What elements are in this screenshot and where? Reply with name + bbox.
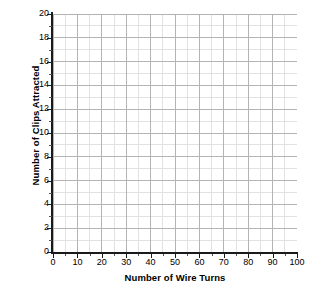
x-tick-mark-minor [285, 254, 286, 256]
y-tick-label: 20 [3, 9, 49, 18]
x-tick-mark [175, 254, 176, 258]
y-tick-mark [47, 204, 52, 205]
y-tick-label: 4 [3, 199, 49, 208]
y-tick-mark [47, 157, 52, 158]
x-tick-mark [53, 254, 54, 258]
y-tick-mark-minor [49, 50, 52, 51]
y-tick-label: 18 [3, 33, 49, 42]
y-tick-mark-minor [49, 240, 52, 241]
x-tick-mark-minor [163, 254, 164, 256]
x-tick-mark [248, 254, 249, 258]
y-tick-mark-minor [49, 169, 52, 170]
y-tick-label: 2 [3, 223, 49, 232]
blank-graph-figure: Number of Clips Attracted 02468101214161… [0, 0, 316, 295]
x-tick-mark-minor [212, 254, 213, 256]
x-tick-mark-minor [260, 254, 261, 256]
y-tick-mark-minor [49, 145, 52, 146]
plot-area [53, 14, 297, 252]
x-tick-mark-minor [138, 254, 139, 256]
y-tick-mark [47, 252, 52, 253]
y-tick-label: 14 [3, 80, 49, 89]
y-tick-label: 10 [3, 128, 49, 137]
y-tick-mark-minor [49, 193, 52, 194]
x-tick-mark [224, 254, 225, 258]
x-tick-mark [273, 254, 274, 258]
y-tick-mark [47, 85, 52, 86]
x-axis-title: Number of Wire Turns [52, 272, 298, 283]
y-tick-mark-minor [49, 121, 52, 122]
x-tick-mark-minor [90, 254, 91, 256]
y-tick-mark [47, 133, 52, 134]
x-tick-mark [297, 254, 298, 258]
y-tick-mark-minor [49, 26, 52, 27]
y-tick-label: 0 [3, 247, 49, 256]
y-tick-mark [47, 109, 52, 110]
y-tick-mark [47, 181, 52, 182]
y-tick-mark-minor [49, 74, 52, 75]
y-tick-label: 6 [3, 176, 49, 185]
y-tick-mark [47, 228, 52, 229]
y-tick-mark [47, 38, 52, 39]
x-tick-mark-minor [236, 254, 237, 256]
y-tick-mark [47, 62, 52, 63]
x-tick-label-group: 0102030405060708090100 [53, 258, 303, 272]
y-tick-label-group: 02468101214161820 [0, 0, 49, 295]
x-tick-mark [126, 254, 127, 258]
x-tick-mark-minor [65, 254, 66, 256]
x-tick-mark [102, 254, 103, 258]
y-tick-label: 16 [3, 57, 49, 66]
y-tick-label: 8 [3, 152, 49, 161]
y-tick-mark-minor [49, 216, 52, 217]
x-tick-mark [77, 254, 78, 258]
x-tick-mark-minor [114, 254, 115, 256]
grid-lines [53, 14, 297, 252]
y-tick-mark-minor [49, 97, 52, 98]
x-tick-mark-minor [187, 254, 188, 256]
y-tick-mark [47, 14, 52, 15]
x-tick-label: 100 [282, 258, 312, 267]
x-tick-mark [151, 254, 152, 258]
y-tick-label: 12 [3, 104, 49, 113]
x-tick-mark [199, 254, 200, 258]
